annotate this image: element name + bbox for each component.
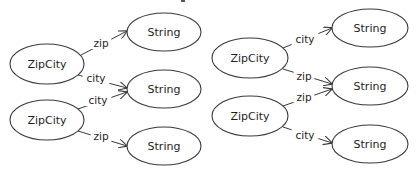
node-label: ZipCity: [27, 58, 67, 71]
node-string: String: [127, 70, 201, 108]
edge-label: zip: [296, 70, 311, 82]
edge-label: zip: [93, 130, 108, 142]
node-label: String: [354, 22, 387, 35]
node-zipcity: ZipCity: [10, 100, 84, 140]
edge-zip-zc2-to-s2: zip: [283, 89, 332, 106]
edge-label: zip: [93, 37, 108, 49]
edge-city-zc2-to-s2: city: [78, 92, 127, 109]
node-string: String: [127, 13, 201, 51]
edge-label: zip: [296, 91, 311, 103]
node-label: String: [354, 138, 387, 151]
object-graph-diagram: zipcitycityzipZipCityZipCityStringString…: [0, 0, 417, 170]
node-string: String: [332, 9, 408, 47]
node-label: String: [148, 26, 181, 39]
node-string: String: [127, 127, 201, 165]
node-zipcity: ZipCity: [10, 44, 84, 84]
node-zipcity: ZipCity: [212, 96, 288, 136]
diagram-right: cityzipzipcityZipCityZipCityStringString…: [212, 9, 408, 163]
edge-city-zc2-to-s3: city: [283, 127, 332, 143]
edge-label: city: [88, 94, 107, 106]
edge-zip-zc2-to-s3: zip: [78, 130, 127, 146]
node-string: String: [332, 67, 408, 105]
edge-label: city: [295, 129, 314, 141]
edge-city-zc1-to-s2: city: [78, 72, 127, 88]
edge-zip-zc1-to-s1: zip: [81, 31, 127, 55]
clipped-text-remnant: [181, 0, 185, 2]
node-label: ZipCity: [27, 114, 67, 127]
node-label: ZipCity: [230, 52, 270, 65]
node-label: String: [148, 140, 181, 153]
node-label: String: [148, 83, 181, 96]
diagram-left: zipcitycityzipZipCityZipCityStringString…: [10, 13, 201, 165]
node-label: String: [354, 80, 387, 93]
edge-label: city: [86, 72, 105, 84]
node-string: String: [332, 125, 408, 163]
node-zipcity: ZipCity: [212, 38, 288, 78]
node-label: ZipCity: [230, 110, 270, 123]
edge-city-zc1-to-s1: city: [283, 28, 332, 48]
edge-zip-zc1-to-s2: zip: [283, 69, 332, 84]
edge-label: city: [295, 33, 314, 45]
